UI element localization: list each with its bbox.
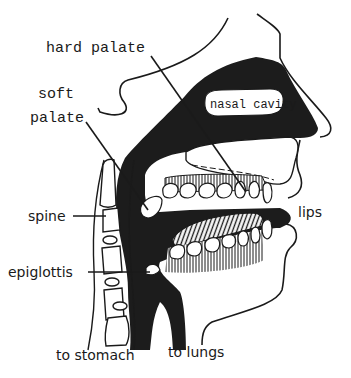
label-nasal-cavity: nasal cavity xyxy=(210,98,296,112)
label-to-stomach: to stomach xyxy=(56,347,135,363)
epiglottis-region xyxy=(146,264,160,274)
head-cross-section-diagram: nasal cavity xyxy=(0,0,351,378)
label-soft-palate-line2: palate xyxy=(30,110,84,127)
label-lips: lips xyxy=(298,204,322,220)
label-to-lungs: to lungs xyxy=(168,344,224,360)
upper-teeth xyxy=(163,174,272,203)
label-epiglottis: epiglottis xyxy=(8,264,73,280)
label-soft-palate-line1: soft xyxy=(38,86,74,103)
label-spine: spine xyxy=(28,208,66,224)
label-hard-palate: hard palate xyxy=(46,40,145,57)
